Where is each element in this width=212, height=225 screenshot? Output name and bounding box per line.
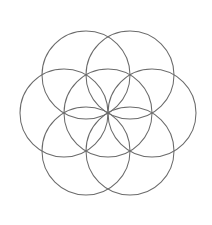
circle-group [20, 31, 196, 195]
seed-of-life-figure [0, 0, 212, 225]
seed-of-life-svg [0, 0, 212, 225]
